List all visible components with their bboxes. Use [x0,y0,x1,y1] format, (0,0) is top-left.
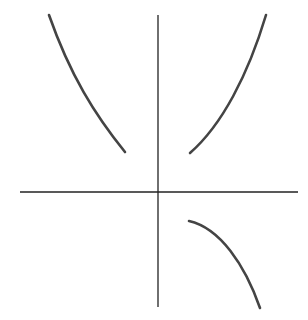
lower-right-curve [189,221,260,308]
upper-right-curve [190,15,266,153]
graph-figure [0,0,308,320]
graph-canvas [0,0,308,320]
upper-left-curve [49,15,125,152]
